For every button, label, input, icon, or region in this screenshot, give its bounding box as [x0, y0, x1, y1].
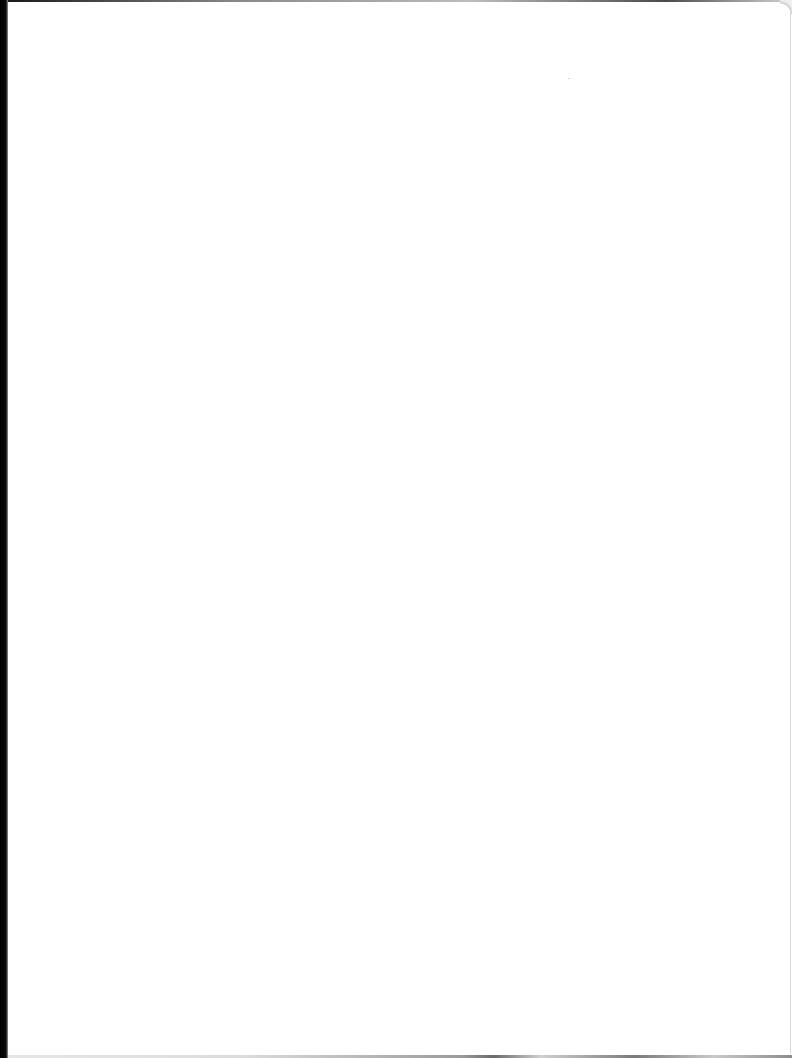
scan-left-shadow-edge: [0, 0, 8, 1058]
scan-right-edge: [790, 8, 791, 1054]
scanned-blank-page: [0, 0, 792, 1058]
scan-top-shadow-edge: [8, 0, 782, 2]
dust-speck: [568, 78, 570, 79]
